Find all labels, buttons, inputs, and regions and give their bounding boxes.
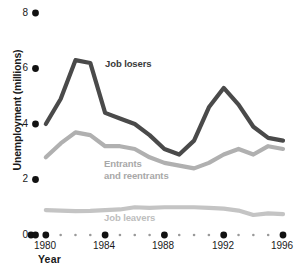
y-tick-label-0: 0 xyxy=(14,229,28,240)
series-line-0 xyxy=(46,60,283,154)
x-tick-label-1988: 1988 xyxy=(143,240,183,251)
y-tick-label-6: 6 xyxy=(14,62,28,73)
y-axis-tick-dots xyxy=(32,10,39,239)
series-label-job-leavers: Job leavers xyxy=(104,212,155,224)
x-tick-label-1984: 1984 xyxy=(84,240,124,251)
series-label-entrants-and-reentrants: Entrants and reentrants xyxy=(104,158,169,181)
x-tick-label-1992: 1992 xyxy=(203,240,243,251)
y-tick-label-2: 2 xyxy=(14,173,28,184)
x-axis-title: Year xyxy=(38,253,61,265)
series-label-job-losers: Job losers xyxy=(105,58,152,70)
x-axis-major-tick-dots xyxy=(28,232,287,239)
x-tick-label-1996: 1996 xyxy=(262,240,302,251)
y-axis-title: Unemployment (millions) xyxy=(11,35,23,185)
chart-plot-area xyxy=(0,0,304,276)
y-tick-label-4: 4 xyxy=(14,118,28,129)
data-series-lines xyxy=(46,60,283,215)
unemployment-chart-figure: Unemployment (millions) Year 8 6 4 2 0 1… xyxy=(0,0,304,276)
y-tick-label-8: 8 xyxy=(14,7,28,18)
x-tick-label-1980: 1980 xyxy=(25,240,65,251)
series-line-2 xyxy=(46,207,283,215)
